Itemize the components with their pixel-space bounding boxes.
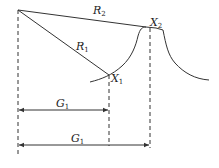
label-r2: R2 (93, 5, 106, 18)
label-r1: R1 (76, 41, 89, 54)
diagram-svg (0, 0, 219, 168)
label-x1: X1 (111, 73, 123, 86)
terrain-right-curve (163, 30, 209, 80)
r1-line (18, 10, 109, 75)
diagram-canvas: R2 X2 R1 X1 G1 G1 (0, 0, 219, 168)
r2-line (18, 10, 146, 27)
label-x2: X2 (150, 17, 162, 30)
label-g-upper: G1 (56, 98, 69, 111)
label-g-lower: G1 (71, 133, 84, 146)
